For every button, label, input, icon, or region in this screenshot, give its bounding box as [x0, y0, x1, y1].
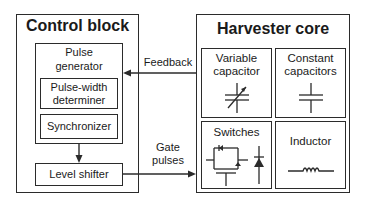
constant-capacitors-cell: Constant capacitors: [275, 48, 346, 118]
gate-pulses-label-line1: Gate: [140, 141, 196, 154]
pulse-width-determiner-label-line2: determiner: [40, 94, 118, 107]
constant-capacitors-label-line1: Constant: [276, 52, 345, 65]
capacitor-icon: [291, 83, 331, 115]
pulse-width-determiner-label-line1: Pulse-width: [40, 81, 118, 94]
switches-cell: Switches: [201, 121, 272, 189]
inductor-cell: Inductor: [275, 121, 346, 189]
inductor-icon: [286, 162, 336, 174]
synchronizer-label: Synchronizer: [40, 120, 118, 133]
variable-capacitor-icon: [217, 83, 257, 115]
control-block-title: Control block: [16, 17, 139, 35]
variable-capacitor-label-line1: Variable: [202, 52, 271, 65]
harvester-core-title: Harvester core: [196, 20, 350, 38]
constant-capacitors-label-line2: capacitors: [276, 65, 345, 78]
pulse-generator-label-line1: Pulse: [35, 46, 123, 59]
gate-pulses-label-line2: pulses: [140, 154, 196, 167]
switches-label: Switches: [202, 126, 271, 139]
gate-arrowhead-icon: [188, 171, 196, 178]
inductor-label: Inductor: [276, 135, 345, 148]
variable-capacitor-cell: Variable capacitor: [201, 48, 272, 118]
level-shifter-label: Level shifter: [35, 168, 123, 181]
pulse-generator-label-line2: generator: [35, 60, 123, 73]
feedback-label: Feedback: [140, 56, 196, 69]
mosfet-switch-icon: [204, 142, 270, 186]
variable-capacitor-label-line2: capacitor: [202, 65, 271, 78]
